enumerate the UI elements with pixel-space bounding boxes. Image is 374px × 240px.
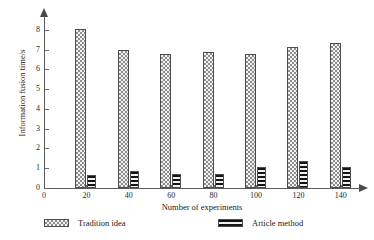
x-axis-tick-label: 80: [199, 191, 229, 200]
x-axis-tick-label: 60: [156, 191, 186, 200]
legend-item-tradition-idea: Tradition idea: [44, 218, 126, 228]
bars-layer: [44, 18, 362, 188]
bar-tradition-idea: [287, 47, 298, 188]
y-axis-tick: [45, 188, 49, 189]
x-axis-tick-label: 40: [114, 191, 144, 200]
bar-article-method: [130, 171, 139, 188]
x-axis-tick-label: 0: [29, 191, 59, 200]
bar-tradition-idea: [245, 54, 256, 188]
bar-tradition-idea: [118, 50, 129, 188]
legend-swatch-article-method: [218, 219, 243, 227]
bar-tradition-idea: [75, 29, 86, 188]
x-axis-line: [44, 188, 360, 189]
bar-article-method: [172, 174, 181, 188]
legend-item-article-method: Article method: [218, 218, 303, 228]
y-axis-tick-label: 1: [20, 164, 40, 172]
chart-legend: Tradition idea Article method: [0, 216, 374, 236]
x-axis-tick-label: 120: [283, 191, 313, 200]
bar-tradition-idea: [160, 54, 171, 188]
bar-tradition-idea: [203, 52, 214, 188]
bar-article-method: [215, 174, 224, 188]
legend-swatch-tradition-idea: [44, 219, 69, 227]
legend-label-article-method: Article method: [252, 218, 303, 228]
bar-article-method: [87, 175, 96, 188]
x-axis-title: Number of experiments: [44, 202, 360, 212]
x-axis-tick-label: 140: [326, 191, 356, 200]
x-axis-tick-label: 100: [241, 191, 271, 200]
chart-figure: 012345678 020406080100120140 Number of e…: [0, 0, 374, 240]
bar-tradition-idea: [330, 43, 341, 188]
bar-article-method: [257, 167, 266, 188]
bar-article-method: [342, 167, 351, 188]
x-axis-tick-label: 20: [71, 191, 101, 200]
legend-label-tradition-idea: Tradition idea: [78, 218, 126, 228]
bar-article-method: [299, 161, 308, 188]
y-axis-title: Information fusion time/s: [17, 23, 27, 163]
